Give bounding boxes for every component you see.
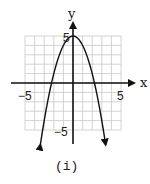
y-min-tick-label: −5	[54, 125, 68, 139]
parabola-graph: x y −5 5 5 −5 (i)	[0, 0, 150, 184]
x-axis-label: x	[140, 75, 148, 90]
y-axis-label: y	[67, 6, 76, 21]
x-max-tick-label: 5	[117, 89, 124, 103]
x-min-tick-label: −5	[18, 89, 32, 103]
figure-caption: (i)	[55, 159, 78, 174]
y-max-tick-label: 5	[63, 31, 70, 45]
